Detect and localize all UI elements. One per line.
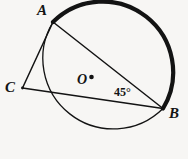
label-point-b: B — [169, 106, 179, 121]
label-angle-45: 45° — [114, 86, 131, 98]
vertex-dot-a — [52, 21, 55, 24]
center-point-dot — [89, 75, 94, 80]
label-center-o: O — [77, 73, 87, 87]
geometry-figure: A B C O 45° — [0, 0, 188, 159]
label-point-c: C — [5, 80, 15, 95]
circle-outline-thin-arc — [43, 22, 163, 129]
vertex-dot-b — [162, 107, 165, 110]
label-point-a: A — [37, 3, 47, 18]
vertex-dot-c — [21, 87, 24, 90]
geometry-canvas — [0, 0, 188, 159]
chord-ac — [23, 22, 54, 88]
